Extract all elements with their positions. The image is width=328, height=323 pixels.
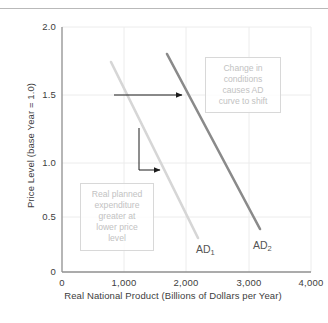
ad2-label-subscript: 2	[268, 244, 272, 253]
expenditure-callout-line-1: Real planned	[85, 189, 149, 200]
y-axis-title: Price Level (base Year = 1.0)	[25, 56, 36, 236]
ad1-label: AD1	[196, 243, 215, 255]
x-tick-1000: 1,000	[104, 277, 144, 288]
ad2-label: AD2	[253, 239, 272, 251]
y-tick-0: 0	[26, 266, 56, 277]
chart-figure: 2.0 1.5 1.0 0.5 0 0 1,000 2,000 3,000 4,…	[0, 0, 328, 323]
y-tick-2-0: 2.0	[26, 21, 56, 32]
expenditure-callout: Real planned expenditure greater at lowe…	[80, 183, 154, 251]
expenditure-callout-line-2: expenditure	[85, 200, 149, 211]
expenditure-callout-line-3: greater at	[85, 211, 149, 222]
expenditure-callout-line-4: lower price	[85, 222, 149, 233]
movement-arrow	[139, 128, 160, 170]
shift-callout-line-1: Change in	[210, 63, 276, 74]
x-tick-3000: 3,000	[229, 277, 269, 288]
shift-callout-line-3: causes AD	[210, 85, 276, 96]
expenditure-callout-line-5: level	[85, 233, 149, 244]
ad2-label-text: AD	[253, 239, 268, 251]
x-tick-2000: 2,000	[166, 277, 206, 288]
x-tick-0: 0	[42, 277, 82, 288]
ad1-label-text: AD	[196, 243, 211, 255]
shift-callout-line-2: conditions	[210, 74, 276, 85]
x-axis-title: Real National Product (Billions of Dolla…	[28, 290, 318, 301]
shift-callout-line-4: curve to shift	[210, 96, 276, 107]
shift-callout: Change in conditions causes AD curve to …	[205, 57, 281, 113]
ad1-label-subscript: 1	[211, 248, 215, 257]
x-tick-4000: 4,000	[291, 277, 328, 288]
